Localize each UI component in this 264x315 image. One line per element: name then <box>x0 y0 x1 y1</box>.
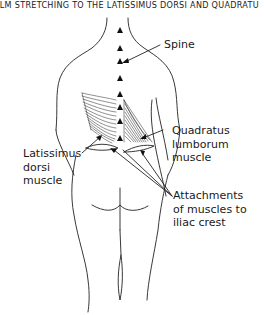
latissimus-dorsi-label: Latissimus dorsi muscle <box>23 147 81 188</box>
attachments-label-line-3: iliac crest <box>173 216 247 230</box>
attachments-arrowhead-2 <box>140 150 145 156</box>
attachments-label: Attachments of muscles to iliac crest <box>173 189 247 230</box>
neck-outline-right <box>128 18 180 130</box>
neck-outline-left <box>56 18 107 130</box>
iliac-crest-right <box>124 145 154 152</box>
attachments-label-line-2: of muscles to <box>173 203 247 217</box>
latissimus-label-line-2: dorsi <box>23 161 81 175</box>
spine-label-text: Spine <box>164 38 195 51</box>
latissimus-label-line-1: Latissimus <box>23 147 81 161</box>
spine-markers <box>117 27 123 141</box>
attachments-leader-line-3 <box>123 150 172 196</box>
leg-gap <box>118 230 122 300</box>
quadratus-label-line-3: muscle <box>172 151 230 165</box>
quadratus-arrowhead <box>140 134 146 139</box>
hip-outline-right <box>147 175 168 300</box>
arm-line-right-2 <box>156 98 168 160</box>
attachments-leader-line-1 <box>114 150 172 196</box>
latissimus-label-line-3: muscle <box>23 174 81 188</box>
latissimus-dorsi-muscle <box>82 93 116 143</box>
spine-leader-line <box>125 45 160 62</box>
quadratus-lumborum-label: Quadratus lumborum muscle <box>172 124 230 165</box>
quadratus-label-line-1: Quadratus <box>172 124 230 138</box>
quadratus-label-line-2: lumborum <box>172 138 230 152</box>
spine-label: Spine <box>164 38 195 52</box>
spine-arrowhead <box>122 58 129 63</box>
attachments-label-line-1: Attachments <box>173 189 247 203</box>
